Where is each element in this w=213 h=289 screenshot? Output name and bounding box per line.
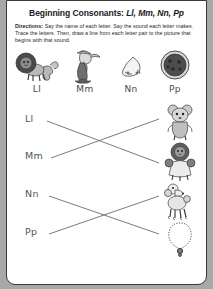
line-mm-to-mouse [51, 119, 159, 158]
nose-picture [107, 49, 155, 83]
mouse-picture[interactable] [159, 101, 203, 141]
title-letters: Ll, Mm, Nn, Pp [126, 8, 184, 18]
reference-label: Ll [13, 84, 61, 94]
directions-block: Directions: Say the name of each letter.… [15, 23, 198, 45]
reference-cell-ll: Ll [13, 49, 61, 94]
reference-label: Nn [107, 84, 155, 94]
reference-cell-mm: Mm [61, 49, 109, 94]
necklace-picture[interactable] [159, 219, 203, 259]
title-prefix: Beginning Consonants: [29, 8, 126, 18]
lion-toy-picture[interactable] [159, 141, 203, 181]
pizza-picture [151, 49, 199, 83]
match-label-mm[interactable]: Mm [25, 150, 43, 161]
matching-area: Ll Mm Nn Pp [7, 101, 207, 266]
reference-label: Pp [151, 84, 199, 94]
reference-cell-pp: Pp [151, 49, 199, 94]
match-label-pp[interactable]: Pp [25, 226, 37, 237]
worksheet-page: Beginning Consonants: Ll, Mm, Nn, Pp Dir… [6, 0, 207, 285]
reference-label: Mm [61, 84, 109, 94]
page-title: Beginning Consonants: Ll, Mm, Nn, Pp [13, 8, 200, 18]
mermaid-picture [61, 49, 109, 83]
reference-cell-nn: Nn [107, 49, 155, 94]
lion-picture [13, 49, 61, 83]
poodle-picture[interactable] [159, 181, 203, 221]
reference-row: Ll Mm [7, 49, 207, 99]
line-ll-to-lion [47, 121, 159, 163]
directions-lead: Directions: [15, 23, 43, 29]
match-label-nn[interactable]: Nn [25, 188, 39, 199]
match-label-ll[interactable]: Ll [25, 113, 34, 124]
